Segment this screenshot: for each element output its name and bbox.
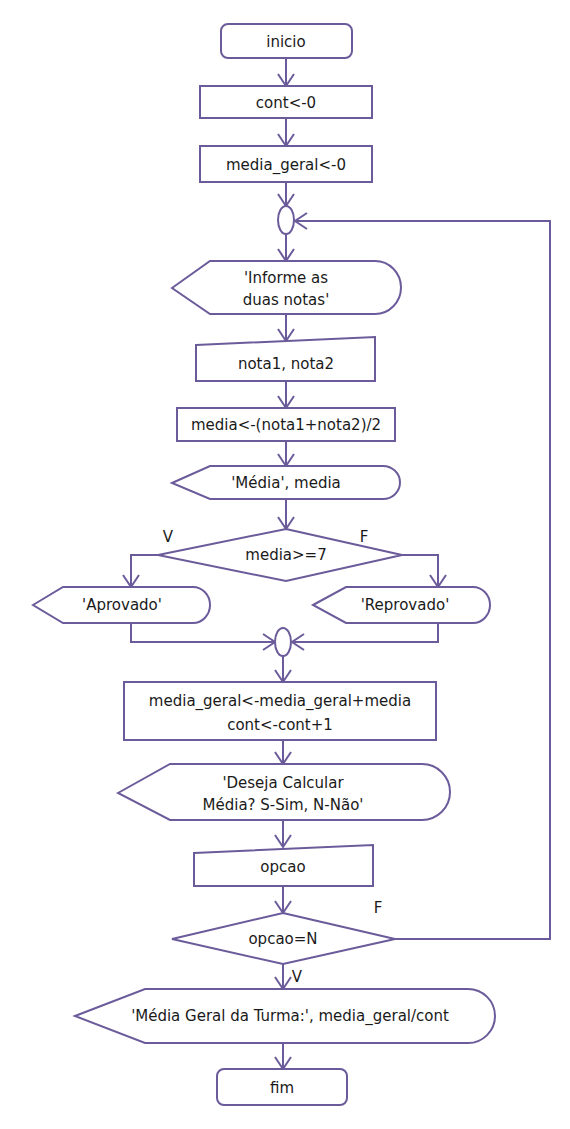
node-loop-connector [278,206,294,234]
edge-reprovado-merge [292,623,438,642]
node-show-media-geral: 'Média Geral da Turma:', media_geral/con… [75,989,495,1043]
branch-label-false: F [374,899,383,917]
node-label: media>=7 [245,546,326,564]
node-label: media_geral<-0 [226,156,346,175]
node-label-line-2: duas notas' [243,291,330,309]
node-label: opcao=N [248,930,317,948]
node-decision-media: media>=7 V F [158,528,402,581]
node-label: fim [270,1079,294,1097]
node-label: nota1, nota2 [238,355,334,373]
connector-shape [278,206,294,234]
node-reprovado: 'Reprovado' [313,587,490,623]
node-cont-init: cont<-0 [200,86,372,118]
node-merge-connector [275,628,291,656]
node-label: 'Média Geral da Turma:', media_geral/con… [131,1007,449,1026]
node-label-line-1: 'Deseja Calcular [222,774,344,792]
node-calc-media: media<-(nota1+nota2)/2 [177,408,395,441]
node-fim: fim [217,1069,347,1105]
node-show-media: 'Média', media [172,466,400,499]
node-aprovado: 'Aprovado' [33,587,210,623]
node-label: 'Aprovado' [82,596,162,614]
connector-shape [275,628,291,656]
branch-label-true: V [292,968,303,986]
edge-aprovado-merge [131,623,275,642]
node-inicio: inicio [221,24,352,58]
edge-decision-reprovado [402,555,438,587]
edge-loop-back [295,221,550,939]
node-label: 'Reprovado' [361,596,450,614]
node-prompt-continuar: 'Deseja Calcular Média? S-Sim, N-Não' [118,764,450,820]
node-label: cont<-0 [256,94,316,112]
node-label-line-2: Média? S-Sim, N-Não' [203,796,364,814]
node-label-line-1: media_geral<-media_geral+media [149,692,411,711]
node-label: opcao [260,858,305,876]
node-label-line-2: cont<-cont+1 [227,716,333,734]
node-accumulate: media_geral<-media_geral+media cont<-con… [124,682,436,740]
node-input-notas: nota1, nota2 [196,337,375,381]
flowchart: inicio cont<-0 media_geral<-0 'Informe a… [0,0,570,1129]
branch-label-false: F [360,528,369,546]
node-media-geral-init: media_geral<-0 [200,146,372,182]
branch-label-true: V [163,528,174,546]
node-input-opcao: opcao [194,845,373,886]
node-label: 'Média', media [231,474,341,492]
node-label-line-1: 'Informe as [244,269,328,287]
node-prompt-notas: 'Informe as duas notas' [172,261,401,314]
node-label: media<-(nota1+nota2)/2 [191,416,381,434]
node-label: inicio [266,33,305,51]
